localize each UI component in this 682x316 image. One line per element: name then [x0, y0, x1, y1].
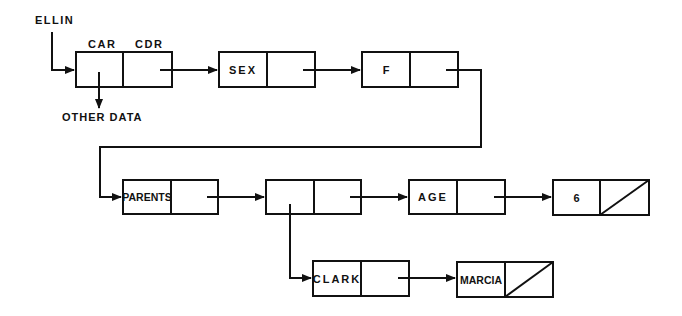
node-sublist — [266, 180, 361, 214]
node-1 — [76, 52, 172, 87]
nil-slash — [505, 262, 553, 297]
node-text-parents: PARENTS — [123, 180, 171, 214]
node-text-f: F — [362, 52, 410, 87]
node-text-6: 6 — [553, 180, 600, 215]
cdr-arrow-wrap — [100, 70, 481, 197]
header-label-car: CAR — [88, 38, 116, 50]
node-text-marcia: MARCIA — [457, 262, 505, 297]
car-arrow-sublist — [290, 204, 311, 278]
nil-slash — [600, 180, 649, 215]
node-text-clark: CLARK — [313, 261, 361, 296]
pointer-label-ellin: ELLIN — [35, 14, 74, 26]
node-text-sex: SEX — [219, 52, 267, 87]
other-data-label: OTHER DATA — [62, 111, 142, 123]
header-label-cdr: CDR — [135, 38, 163, 50]
ellin-pointer-arrow — [52, 32, 74, 70]
node-text-age: AGE — [409, 180, 457, 214]
